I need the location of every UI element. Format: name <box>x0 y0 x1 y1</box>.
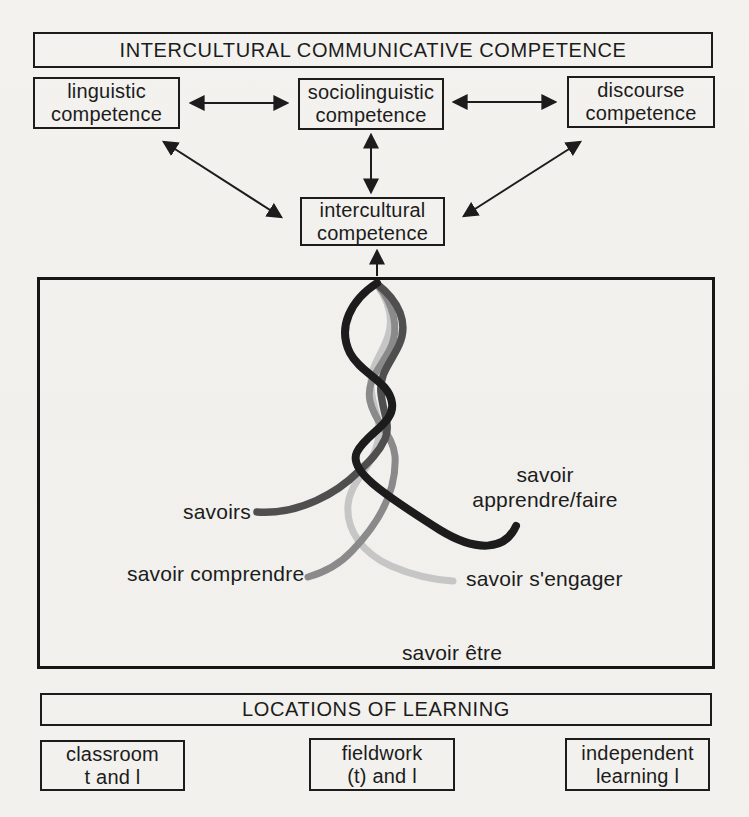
sociolinguistic-competence-box: sociolinguistic competence <box>298 78 444 130</box>
fieldwork-line1: fieldwork <box>342 742 423 765</box>
fieldwork-box: fieldwork (t) and l <box>309 738 455 791</box>
arrow-discourse-intercultural <box>464 142 580 216</box>
independent-line2: learning l <box>596 765 679 788</box>
intercultural-competence-line1: intercultural <box>320 199 426 222</box>
intercultural-competence-box: intercultural competence <box>300 197 445 246</box>
linguistic-competence-line1: linguistic <box>67 80 146 103</box>
figure-byram-icc-model: INTERCULTURAL COMMUNICATIVE COMPETENCE l… <box>0 0 749 817</box>
independent-line1: independent <box>581 742 693 765</box>
linguistic-competence-box: linguistic competence <box>33 77 180 129</box>
discourse-competence-line1: discourse <box>597 79 684 102</box>
linguistic-competence-line2: competence <box>51 103 162 126</box>
savoir-comprendre-label: savoir comprendre <box>127 561 304 586</box>
classroom-line1: classroom <box>66 743 159 766</box>
savoir-apprendre-line1: savoir <box>455 462 635 487</box>
classroom-line2: t and l <box>85 766 141 789</box>
locations-title-label: LOCATIONS OF LEARNING <box>242 698 510 721</box>
savoirs-label: savoirs <box>183 499 251 524</box>
icc-title-label: INTERCULTURAL COMMUNICATIVE COMPETENCE <box>120 39 627 62</box>
sociolinguistic-competence-line1: sociolinguistic <box>308 81 434 104</box>
savoir-etre-label: savoir être <box>377 640 527 665</box>
classroom-box: classroom t and l <box>40 740 185 791</box>
savoir-sengager-label: savoir s'engager <box>466 566 623 591</box>
savoir-apprendre-line2: apprendre/faire <box>455 487 635 512</box>
independent-learning-box: independent learning l <box>565 738 710 791</box>
discourse-competence-line2: competence <box>586 102 697 125</box>
sociolinguistic-competence-line2: competence <box>316 104 427 127</box>
arrow-linguistic-intercultural <box>164 142 281 217</box>
icc-title-box: INTERCULTURAL COMMUNICATIVE COMPETENCE <box>33 32 713 68</box>
discourse-competence-box: discourse competence <box>567 76 715 128</box>
intercultural-competence-line2: competence <box>317 222 428 245</box>
locations-title-box: LOCATIONS OF LEARNING <box>40 693 712 726</box>
savoir-apprendre-faire-label: savoir apprendre/faire <box>455 462 635 512</box>
fieldwork-line2: (t) and l <box>347 765 417 788</box>
